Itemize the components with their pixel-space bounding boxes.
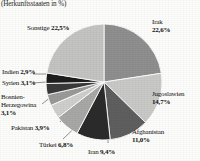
slice-label-pakistan: Pakistan 3,9% bbox=[11, 124, 50, 132]
slice-label-tuerkei-name: Türkei bbox=[39, 141, 56, 149]
slice-label-jugoslawien-name: Jugoslawien bbox=[152, 90, 184, 98]
slice-label-indien: Indien 2,9% bbox=[2, 68, 35, 76]
slice-label-tuerkei-value: 6,8% bbox=[58, 141, 73, 149]
slice-label-sonstige-name: Sonstige bbox=[27, 24, 50, 32]
slice-label-afghanistan-value: 11,0% bbox=[132, 136, 164, 144]
slice-label-irak-name: Irak bbox=[152, 18, 170, 26]
slice-label-bosnien-herzegowina: Bosnien- Herzegowina 3,1% bbox=[1, 93, 47, 118]
slice-label-syrien-value: 3,1% bbox=[21, 79, 36, 87]
slice-label-sonstige-value: 22,5% bbox=[51, 24, 69, 32]
slice-label-bosnien-line2: Herzegowina bbox=[1, 101, 47, 109]
slice-label-iran: Iran 9,4% bbox=[88, 148, 115, 156]
pie-slices bbox=[46, 24, 162, 140]
pie-slice-sonstige bbox=[47, 24, 104, 82]
slice-label-irak-value: 22,6% bbox=[152, 26, 170, 34]
slice-label-afghanistan: Afghanistan 11,0% bbox=[132, 128, 164, 144]
slice-label-pakistan-value: 3,9% bbox=[35, 124, 50, 132]
slice-label-bosnien-line1: Bosnien- bbox=[1, 93, 47, 101]
slice-label-iran-value: 9,4% bbox=[100, 148, 115, 156]
pie-chart-figure: (Herkunftsstaaten in %) Sonstige 22,5% I… bbox=[0, 0, 200, 161]
slice-label-irak: Irak 22,6% bbox=[152, 18, 170, 34]
slice-label-jugoslawien: Jugoslawien 14,7% bbox=[152, 90, 184, 106]
slice-label-indien-value: 2,9% bbox=[20, 68, 35, 76]
slice-label-tuerkei: Türkei 6,8% bbox=[39, 141, 73, 149]
slice-label-iran-name: Iran bbox=[88, 148, 98, 156]
slice-label-syrien: Syrien 3,1% bbox=[2, 79, 36, 87]
slice-label-syrien-name: Syrien bbox=[2, 79, 19, 87]
slice-label-jugoslawien-value: 14,7% bbox=[152, 98, 184, 106]
slice-label-indien-name: Indien bbox=[2, 68, 19, 76]
slice-label-afghanistan-name: Afghanistan bbox=[132, 128, 164, 136]
slice-label-sonstige: Sonstige 22,5% bbox=[27, 24, 69, 32]
slice-label-pakistan-name: Pakistan bbox=[11, 124, 33, 132]
slice-label-bosnien-value: 3,1% bbox=[1, 109, 47, 117]
